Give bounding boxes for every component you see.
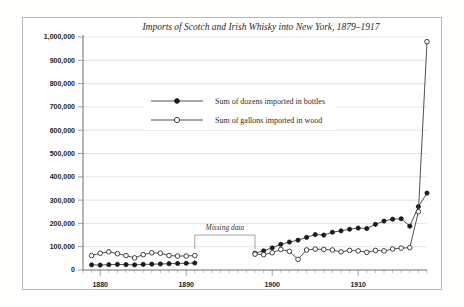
legend-label-bottles: Sum of dozens imported in bottles bbox=[215, 97, 325, 106]
data-point bbox=[313, 247, 318, 252]
data-point bbox=[107, 250, 112, 255]
x-tick-label: 1890 bbox=[178, 281, 194, 288]
data-point bbox=[158, 262, 162, 266]
data-point bbox=[133, 263, 137, 267]
x-tick-label: 1900 bbox=[264, 281, 280, 288]
data-point bbox=[141, 252, 146, 257]
legend-marker-bottles bbox=[175, 99, 180, 104]
y-tick-label: 300,000 bbox=[50, 197, 75, 205]
data-point bbox=[296, 257, 301, 262]
y-tick-label: 600,000 bbox=[50, 127, 75, 135]
y-tick-label: 900,000 bbox=[50, 57, 75, 65]
data-point bbox=[132, 256, 137, 261]
data-point bbox=[253, 252, 258, 257]
data-point bbox=[167, 253, 172, 258]
data-point bbox=[365, 226, 369, 230]
y-tick-label: 0 bbox=[71, 266, 75, 273]
data-point bbox=[193, 253, 198, 258]
y-tick-label: 200,000 bbox=[50, 220, 75, 228]
data-point bbox=[115, 262, 119, 266]
data-point bbox=[124, 253, 129, 258]
x-minor-ticks bbox=[83, 270, 427, 276]
data-point bbox=[184, 254, 189, 259]
whisky-imports-line-chart: 0100,000200,000300,000400,000500,000600,… bbox=[23, 18, 441, 289]
data-point bbox=[287, 240, 291, 244]
missing-data-annotation: Missing data bbox=[195, 223, 255, 249]
y-tick-label: 800,000 bbox=[50, 80, 75, 88]
data-point bbox=[339, 250, 344, 255]
data-point bbox=[348, 227, 352, 231]
data-point bbox=[89, 253, 94, 258]
data-point bbox=[347, 248, 352, 253]
data-point bbox=[330, 230, 334, 234]
x-tick-label: 1910 bbox=[350, 281, 366, 288]
data-point bbox=[382, 249, 387, 254]
legend-marker-gallons bbox=[174, 117, 179, 122]
data-point bbox=[115, 251, 120, 256]
data-point bbox=[416, 209, 421, 214]
chart-plot-frame: 0100,000200,000300,000400,000500,000600,… bbox=[22, 17, 442, 290]
data-point bbox=[296, 238, 300, 242]
data-point bbox=[98, 251, 103, 256]
data-point bbox=[330, 248, 335, 253]
data-point bbox=[261, 252, 266, 257]
data-point bbox=[287, 249, 292, 254]
y-tick-label: 500,000 bbox=[50, 150, 75, 158]
y-tick-label: 700,000 bbox=[50, 103, 75, 111]
y-tick-label: 100,000 bbox=[50, 243, 75, 251]
data-point bbox=[304, 248, 309, 253]
data-point bbox=[184, 261, 188, 265]
data-point bbox=[98, 263, 102, 267]
x-axis-tick-labels: 1880189019001910 bbox=[92, 281, 366, 288]
data-point bbox=[90, 263, 94, 267]
chart-title: Imports of Scotch and Irish Whisky into … bbox=[141, 22, 380, 32]
y-axis-ticks bbox=[78, 37, 83, 270]
data-point bbox=[107, 263, 111, 267]
data-point bbox=[425, 191, 429, 195]
chart-screenshot: 0100,000200,000300,000400,000500,000600,… bbox=[0, 0, 464, 307]
data-point bbox=[313, 232, 317, 236]
data-point bbox=[270, 250, 275, 255]
data-point bbox=[150, 250, 155, 255]
data-point bbox=[408, 245, 413, 250]
data-point bbox=[425, 39, 430, 44]
data-point bbox=[373, 222, 377, 226]
data-point bbox=[391, 217, 395, 221]
data-point bbox=[373, 248, 378, 253]
x-tick-label: 1880 bbox=[92, 281, 108, 288]
data-point bbox=[322, 247, 327, 252]
data-point bbox=[339, 229, 343, 233]
y-tick-label: 1,000,000 bbox=[44, 33, 75, 41]
data-point bbox=[365, 250, 370, 255]
data-point bbox=[150, 262, 154, 266]
series-line-segment bbox=[255, 42, 427, 260]
legend-label-gallons: Sum of gallons imported in wood bbox=[215, 116, 322, 125]
data-point bbox=[167, 262, 171, 266]
data-point bbox=[124, 263, 128, 267]
data-point bbox=[176, 261, 180, 265]
data-point bbox=[158, 251, 163, 256]
y-axis-tick-labels: 0100,000200,000300,000400,000500,000600,… bbox=[44, 33, 75, 273]
data-point bbox=[141, 262, 145, 266]
data-point bbox=[408, 224, 412, 228]
series-gallons bbox=[89, 39, 429, 261]
data-point bbox=[356, 226, 360, 230]
data-point bbox=[356, 249, 361, 254]
data-point bbox=[193, 261, 197, 265]
missing-data-label: Missing data bbox=[204, 223, 244, 232]
data-point bbox=[399, 246, 404, 251]
data-point bbox=[390, 247, 395, 252]
data-point bbox=[279, 242, 283, 246]
data-point bbox=[270, 246, 274, 250]
data-point bbox=[399, 217, 403, 221]
data-point bbox=[305, 235, 309, 239]
y-tick-label: 400,000 bbox=[50, 173, 75, 181]
chart-legend: Sum of dozens imported in bottles Sum of… bbox=[145, 88, 335, 130]
data-point bbox=[279, 247, 284, 252]
data-point bbox=[322, 233, 326, 237]
gridlines bbox=[83, 37, 427, 247]
data-point bbox=[382, 219, 386, 223]
data-point bbox=[175, 254, 180, 259]
